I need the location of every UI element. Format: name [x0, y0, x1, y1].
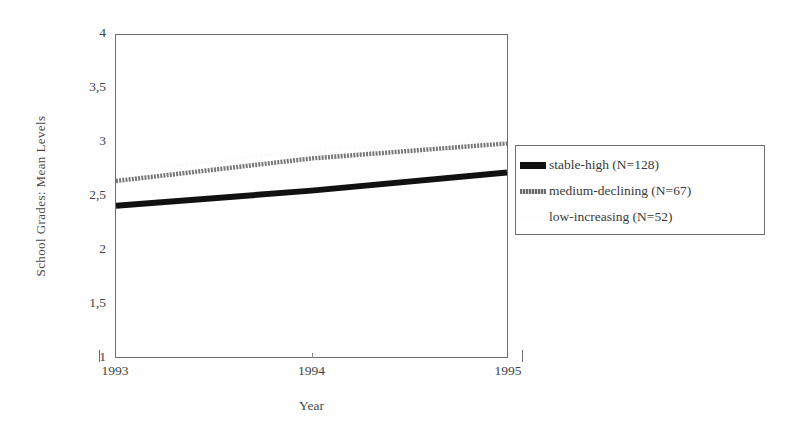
x-tick-label: 1993 [80, 363, 150, 379]
y-axis-title: School Grades: Mean Levels [33, 71, 49, 321]
legend-item[interactable]: stable-high (N=128) [520, 152, 764, 178]
y-tick-label: 3,5 [66, 79, 106, 95]
series-lines [116, 35, 507, 357]
dotted-gray-line-icon [520, 189, 546, 194]
chart-legend: stable-high (N=128)medium-declining (N=6… [515, 145, 765, 235]
x-tick-mark [99, 350, 100, 362]
chart-canvas: School Grades: Mean Levels 43,532,521,51… [0, 0, 802, 439]
legend-item[interactable]: low-increasing (N=52) [520, 204, 764, 230]
x-tick-mark [312, 353, 313, 358]
series-line-2 [116, 140, 507, 172]
x-tick-label: 1994 [277, 363, 347, 379]
y-tick-label: 3 [66, 133, 106, 149]
x-axis-title: Year [115, 398, 508, 414]
x-tick-mark [522, 350, 523, 362]
faint-white-line-icon [520, 215, 546, 219]
legend-item-label: medium-declining (N=67) [549, 183, 691, 199]
y-tick-label: 2 [66, 241, 106, 257]
x-tick-label: 1995 [473, 363, 543, 379]
y-tick-label: 1,5 [66, 295, 106, 311]
y-tick-label: 4 [66, 25, 106, 41]
legend-item[interactable]: medium-declining (N=67) [520, 178, 764, 204]
solid-black-line-icon [520, 162, 546, 169]
plot-area [115, 34, 508, 358]
legend-item-label: stable-high (N=128) [549, 157, 659, 173]
y-tick-label: 2,5 [66, 187, 106, 203]
legend-item-label: low-increasing (N=52) [549, 209, 672, 225]
series-line-0 [116, 172, 507, 205]
